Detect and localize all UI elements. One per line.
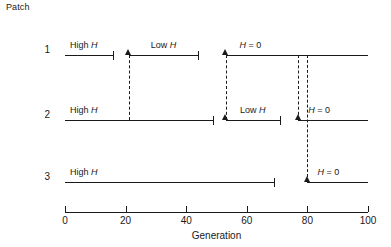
x-axis-tick-label: 20 xyxy=(111,215,141,226)
dashed-connector xyxy=(226,55,227,120)
segment-label: High H xyxy=(70,105,130,115)
timeline-segment xyxy=(129,55,199,56)
x-axis-tick-label: 40 xyxy=(171,215,201,226)
x-axis-line xyxy=(65,212,368,213)
timeline-segment xyxy=(298,120,368,121)
segment-label: High H xyxy=(70,167,130,177)
timeline-segment xyxy=(65,182,274,183)
segment-label: H = 0 xyxy=(240,40,280,50)
x-axis-tick xyxy=(368,206,369,212)
segment-label: H = 0 xyxy=(317,167,357,177)
dashed-connector xyxy=(307,55,308,182)
x-axis-tick xyxy=(307,206,308,212)
patch-generation-timeline-figure: Patch 1High HLow HH = 02High HLow HH = 0… xyxy=(0,0,391,247)
x-axis-tick-label: 80 xyxy=(292,215,322,226)
x-axis-tick-label: 60 xyxy=(232,215,262,226)
dashed-connector xyxy=(298,55,299,120)
segment-label: High H xyxy=(70,40,130,50)
patch-row-label-2: 2 xyxy=(30,109,50,120)
x-axis-tick xyxy=(126,206,127,212)
x-axis-tick-label: 0 xyxy=(50,215,80,226)
patch-row-label-3: 3 xyxy=(30,171,50,182)
patch-axis-title: Patch xyxy=(6,2,30,12)
timeline-segment xyxy=(65,120,213,121)
segment-label: H = 0 xyxy=(308,105,348,115)
x-axis-title: Generation xyxy=(117,230,317,241)
timeline-segment xyxy=(226,55,368,56)
dashed-connector xyxy=(129,55,130,120)
patch-row-label-1: 1 xyxy=(30,44,50,55)
x-axis-tick xyxy=(186,206,187,212)
timeline-segment xyxy=(65,55,113,56)
segment-label: Low H xyxy=(123,40,203,50)
timeline-segment xyxy=(307,182,368,183)
timeline-segment xyxy=(226,120,281,121)
x-axis-tick xyxy=(247,206,248,212)
x-axis-tick-label: 100 xyxy=(353,215,383,226)
x-axis-tick xyxy=(65,206,66,212)
